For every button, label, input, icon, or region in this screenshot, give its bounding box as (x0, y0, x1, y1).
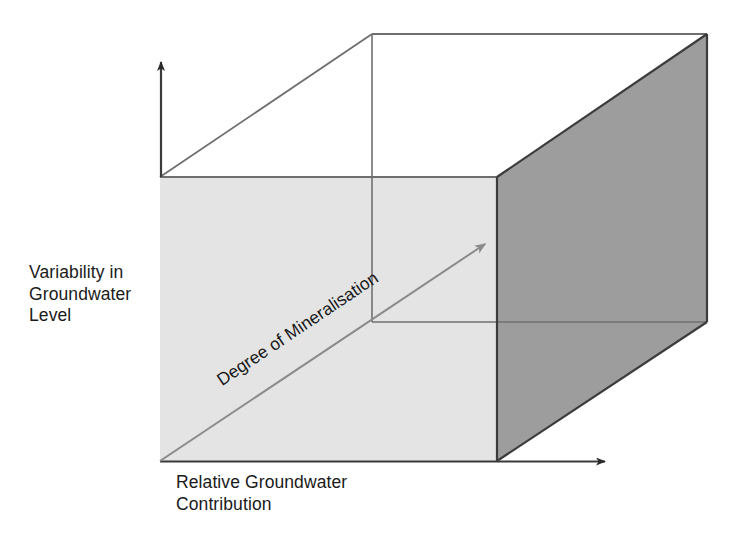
x-axis-label: Relative Groundwater Contribution (176, 472, 476, 515)
y-axis-label: Variability in Groundwater Level (29, 262, 199, 327)
diagram-canvas: Variability in Groundwater Level Relativ… (0, 0, 734, 534)
